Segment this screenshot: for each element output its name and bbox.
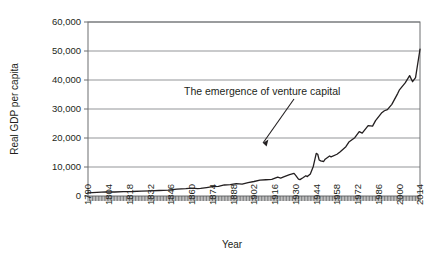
- chart-figure: 010,00020,00030,00040,00050,00060,000 17…: [0, 0, 444, 260]
- x-tick-label: 1832: [145, 184, 156, 205]
- x-tick-label: 1818: [124, 184, 135, 205]
- x-axis-title: Year: [222, 239, 243, 250]
- x-tick-label: 1972: [352, 184, 363, 205]
- y-tick-label: 40,000: [52, 74, 81, 85]
- x-tick-label: 1944: [311, 184, 322, 205]
- x-tick-label: 1930: [290, 184, 301, 205]
- y-axis-title: Real GDP per capita: [9, 63, 20, 155]
- y-tick-label: 10,000: [52, 161, 81, 172]
- y-tick-label: 0: [76, 190, 81, 201]
- x-tick-label: 1958: [331, 184, 342, 205]
- x-tick-label: 1902: [248, 184, 259, 205]
- annotation-label: The emergence of venture capital: [184, 85, 340, 97]
- x-tick-label: 1986: [373, 184, 384, 205]
- y-tick-label: 20,000: [52, 132, 81, 143]
- x-tick-label: 2014: [414, 184, 425, 205]
- gdp-line-chart: 010,00020,00030,00040,00050,00060,000 17…: [0, 0, 444, 260]
- x-tick-label: 1860: [186, 184, 197, 205]
- chart-background: [0, 0, 444, 260]
- x-tick-label: 1888: [228, 184, 239, 205]
- x-tick-label: 1804: [103, 184, 114, 205]
- y-tick-label: 50,000: [52, 45, 81, 56]
- y-tick-label: 30,000: [52, 103, 81, 114]
- x-tick-label: 1790: [82, 184, 93, 205]
- y-tick-label: 60,000: [52, 16, 81, 27]
- x-tick-label: 2000: [394, 184, 405, 205]
- x-tick-label: 1916: [269, 184, 280, 205]
- x-axis-tick-labels: 1790180418181832184618601874188819021916…: [82, 184, 425, 205]
- x-tick-label: 1846: [165, 184, 176, 205]
